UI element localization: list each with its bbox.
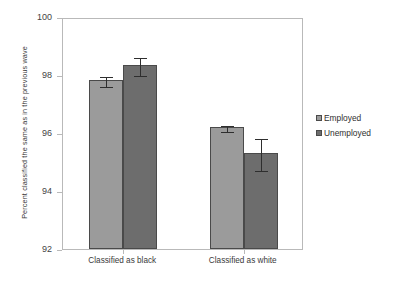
error-bar-upper-cap (221, 126, 234, 127)
error-bar-upper-cap (134, 58, 147, 59)
error-bar-line (140, 58, 141, 75)
y-axis-tick-label: 98 (28, 70, 52, 80)
y-axis-tick-label: 96 (28, 128, 52, 138)
legend-item-employed[interactable]: Employed (316, 113, 395, 123)
y-axis-tick-label: 100 (28, 12, 52, 22)
legend-swatch-icon (316, 130, 322, 136)
y-axis-tick-mark (57, 250, 62, 251)
y-axis-tick-mark (57, 18, 62, 19)
error-bar-upper-cap (255, 139, 268, 140)
legend-swatch-icon (316, 115, 322, 121)
error-bar-lower-cap (134, 76, 147, 77)
error-bar-lower-cap (221, 132, 234, 133)
bar (210, 127, 244, 249)
legend-item-label: Employed (324, 113, 361, 123)
x-axis-category-label: Classified as black (62, 256, 182, 265)
legend-item-unemployed[interactable]: Unemployed (316, 128, 395, 138)
error-bar-upper-cap (100, 77, 113, 78)
bars-layer (63, 19, 302, 249)
x-axis-category-label: Classified as white (183, 256, 303, 265)
y-axis-tick-label: 94 (28, 186, 52, 196)
x-axis-tick-mark (123, 249, 124, 254)
error-bar-lower-cap (255, 171, 268, 172)
y-axis-tick-mark (57, 192, 62, 193)
error-bar-line (261, 139, 262, 171)
chart-legend: EmployedUnemployed (316, 113, 395, 143)
bar (89, 80, 123, 249)
bar (123, 65, 157, 249)
y-axis-tick-mark (57, 134, 62, 135)
x-axis-tick-mark (244, 249, 245, 254)
y-axis-tick-mark (57, 76, 62, 77)
y-axis-tick-label: 92 (28, 244, 52, 254)
error-bar-lower-cap (100, 87, 113, 88)
plot-area (62, 18, 303, 250)
legend-item-label: Unemployed (324, 128, 371, 138)
error-bar-line (106, 77, 107, 86)
bar-chart-figure: Percent classified the same as in the pr… (0, 0, 395, 284)
